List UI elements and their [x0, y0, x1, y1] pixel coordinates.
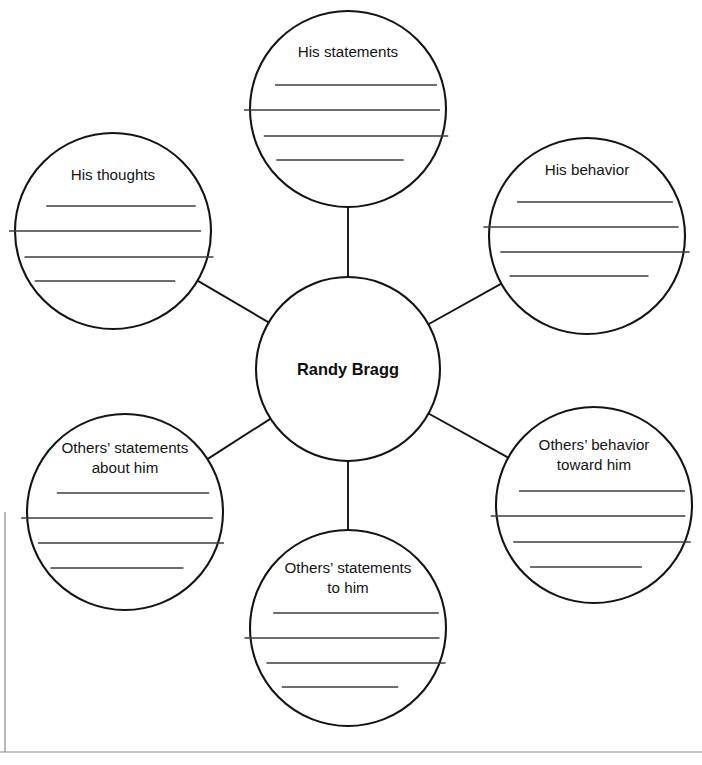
node-label-line: Others’ statements: [285, 559, 412, 576]
node-label-line: toward him: [557, 456, 631, 473]
node-others-statements-to-him[interactable]: Others’ statementsto him: [245, 530, 446, 726]
worksheet-page: His statementsHis behaviorOthers’ behavi…: [0, 0, 702, 765]
node-label-line: His behavior: [545, 161, 629, 178]
node-others-statements-about-him[interactable]: Others’ statementsabout him: [21, 414, 224, 610]
node-label-line: Others’ behavior: [539, 436, 650, 453]
node-his-thoughts[interactable]: His thoughts: [9, 133, 213, 329]
node-label-line: to him: [327, 579, 368, 596]
connector-his-thoughts: [197, 280, 270, 323]
connector-others-statements-about-him: [207, 418, 272, 460]
node-label-line: His thoughts: [71, 166, 156, 183]
node-circle-his-statements: [250, 11, 446, 207]
node-label-his-thoughts: His thoughts: [71, 166, 156, 183]
node-label-line: Others’ statements: [62, 439, 189, 456]
character-web-diagram: His statementsHis behaviorOthers’ behavi…: [0, 0, 702, 765]
node-label-line: His statements: [298, 43, 399, 60]
node-label-his-behavior: His behavior: [545, 161, 629, 178]
center-label: Randy Bragg: [297, 360, 399, 378]
center-node-layer: Randy Bragg: [256, 277, 440, 461]
node-label-line: about him: [92, 459, 159, 476]
node-others-behavior-toward-him[interactable]: Others’ behaviortoward him: [491, 407, 692, 603]
node-his-statements[interactable]: His statements: [244, 11, 448, 207]
connector-others-behavior-toward-him: [428, 413, 509, 458]
node-his-behavior[interactable]: His behavior: [483, 138, 689, 334]
node-label-his-statements: His statements: [298, 43, 399, 60]
connector-his-behavior: [428, 283, 503, 325]
node-center-randy-bragg[interactable]: Randy Bragg: [256, 277, 440, 461]
